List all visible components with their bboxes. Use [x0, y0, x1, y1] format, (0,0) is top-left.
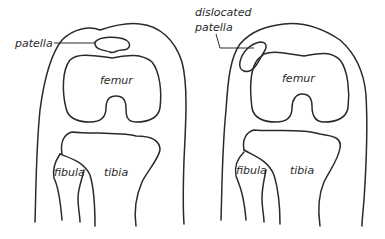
- normal-tibia-label: tibia: [104, 166, 128, 179]
- dislocated-patella-label-line1: dislocated: [195, 6, 252, 19]
- dislocated-fibula-label: fibula: [236, 164, 267, 177]
- normal-tibia-left-edge: [60, 154, 95, 226]
- normal-knee-panel: patella femur fibula tibia: [14, 23, 186, 226]
- dislocated-knee-panel: dislocated patella femur fibula tibia: [194, 6, 367, 226]
- dislocated-fibula-shape: [235, 152, 246, 220]
- dislocated-femur-label: femur: [282, 72, 316, 85]
- normal-fibula-shape: [53, 154, 62, 220]
- normal-femur-shape: [63, 55, 160, 122]
- dislocated-tibia-left-edge: [244, 150, 280, 224]
- normal-fibula-label: fibula: [54, 166, 85, 179]
- dislocated-tibia-shape: [243, 130, 340, 226]
- normal-knee-skin-outline: [35, 23, 186, 224]
- normal-femur-label: femur: [100, 74, 134, 87]
- normal-tibia-shape: [61, 132, 160, 226]
- dislocated-tibia-label: tibia: [290, 164, 314, 177]
- dislocated-patella-label-line2: patella: [194, 21, 233, 34]
- normal-patella-shape: [95, 37, 130, 52]
- knee-diagram: patella femur fibula tibia dislocated pa…: [0, 0, 385, 239]
- dislocated-fibula-right-edge: [262, 170, 266, 222]
- normal-patella-label: patella: [14, 37, 53, 50]
- dislocated-femur-shape: [251, 52, 349, 122]
